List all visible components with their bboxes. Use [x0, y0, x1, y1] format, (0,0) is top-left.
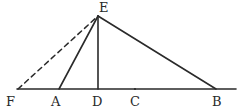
label-d: D [92, 94, 102, 109]
segment-eb [98, 16, 216, 89]
label-e: E [99, 0, 109, 15]
geometry-figure: E F A D C B [0, 0, 244, 111]
point-c-marker [134, 88, 136, 90]
label-c: C [130, 94, 140, 109]
label-f: F [6, 94, 15, 109]
segment-fe-dashed [18, 16, 98, 89]
label-b: B [212, 94, 222, 109]
segment-ae [59, 16, 98, 89]
label-a: A [50, 94, 61, 109]
geometry-diagram: E F A D C B [0, 0, 244, 111]
